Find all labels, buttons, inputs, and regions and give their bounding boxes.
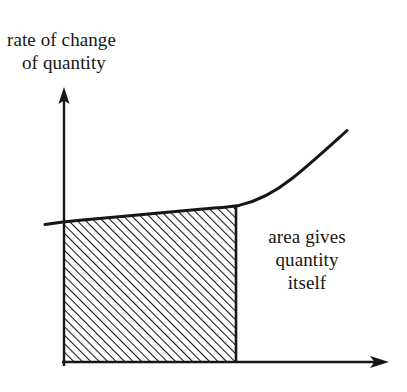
area-annotation: area gives quantity itself: [247, 225, 367, 294]
area-annotation-line-1: area gives: [247, 225, 367, 248]
area-annotation-line-3: itself: [247, 271, 367, 294]
y-axis-caption: rate of change of quantity: [7, 28, 116, 74]
y-axis-caption-line-1: rate of change: [7, 29, 116, 50]
area-annotation-line-2: quantity: [247, 248, 367, 271]
rate-of-change-curve: [45, 131, 347, 225]
y-axis-caption-line-2: of quantity: [7, 51, 116, 74]
hatched-area: [64, 207, 236, 362]
